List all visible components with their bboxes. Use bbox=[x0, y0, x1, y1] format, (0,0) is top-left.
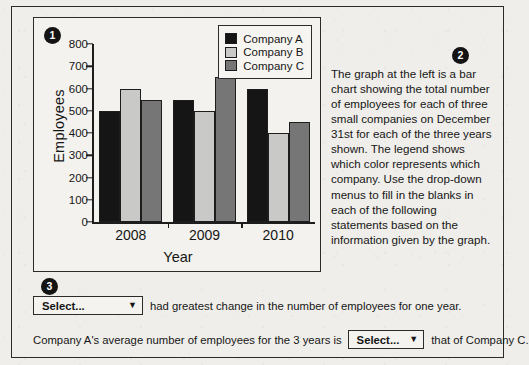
y-axis-tick-labels: 8007006005004003002001000 bbox=[48, 44, 88, 224]
questions-section: Select... ▼ had greatest change in the n… bbox=[33, 296, 493, 349]
y-tick-label: 300 bbox=[48, 149, 88, 161]
legend-item-company-b: Company B bbox=[225, 46, 304, 58]
legend-item-company-c: Company C bbox=[225, 60, 304, 72]
y-tick-mark bbox=[86, 132, 93, 133]
x-tick-label: 2009 bbox=[189, 227, 220, 243]
bar-company-b-2008 bbox=[120, 89, 141, 223]
bar-company-a-2009 bbox=[173, 100, 194, 222]
bar-company-b-2010 bbox=[268, 133, 289, 222]
y-tick-mark bbox=[86, 110, 93, 111]
x-tick-mark bbox=[241, 222, 242, 228]
chart-panel: 1 Employees 8007006005004003002001000 20… bbox=[33, 17, 321, 272]
bar-company-c-2008 bbox=[141, 100, 162, 222]
dropdown-1-value: Select... bbox=[42, 300, 85, 312]
x-tick-label: 2010 bbox=[263, 227, 294, 243]
y-tick-label: 200 bbox=[48, 172, 88, 184]
question-row-1: Select... ▼ had greatest change in the n… bbox=[33, 296, 493, 315]
y-tick-label: 400 bbox=[48, 127, 88, 139]
y-tick-mark bbox=[86, 199, 93, 200]
dropdown-2-value: Select... bbox=[357, 334, 400, 346]
y-tick-mark bbox=[86, 177, 93, 178]
legend-label: Company B bbox=[243, 46, 303, 58]
legend-label: Company A bbox=[243, 33, 302, 45]
question-1-text: had greatest change in the number of emp… bbox=[150, 300, 462, 312]
legend-swatch-icon bbox=[225, 60, 237, 71]
question-row-2: Company A's average number of employees … bbox=[33, 330, 493, 349]
chevron-down-icon: ▼ bbox=[128, 301, 137, 310]
legend-swatch-icon bbox=[225, 47, 237, 58]
bar-company-a-2008 bbox=[99, 111, 120, 222]
y-tick-mark bbox=[86, 155, 93, 156]
x-axis-line bbox=[92, 222, 315, 224]
chart-legend: Company ACompany BCompany C bbox=[218, 25, 312, 79]
bar-company-c-2010 bbox=[289, 122, 310, 222]
bar-company-a-2010 bbox=[247, 89, 268, 223]
bar-company-c-2009 bbox=[215, 77, 236, 222]
chevron-down-icon: ▼ bbox=[409, 335, 418, 344]
question-2-text-after: that of Company C. bbox=[431, 334, 528, 346]
y-tick-label: 600 bbox=[48, 83, 88, 95]
select-dropdown-1[interactable]: Select... ▼ bbox=[33, 296, 143, 315]
legend-label: Company C bbox=[243, 60, 304, 72]
y-tick-mark bbox=[86, 88, 93, 89]
step-badge-3: 3 bbox=[41, 278, 58, 295]
legend-swatch-icon bbox=[225, 33, 237, 44]
y-tick-label: 0 bbox=[48, 216, 88, 228]
x-tick-label: 2008 bbox=[115, 227, 146, 243]
question-2-text-before: Company A's average number of employees … bbox=[33, 334, 342, 346]
y-tick-mark bbox=[86, 221, 93, 222]
y-tick-mark bbox=[86, 66, 93, 67]
legend-item-company-a: Company A bbox=[225, 33, 304, 45]
description-text: The graph at the left is a bar chart sho… bbox=[331, 66, 494, 247]
y-tick-label: 800 bbox=[48, 38, 88, 50]
bar-group-2008 bbox=[94, 44, 168, 222]
step-badge-2: 2 bbox=[452, 47, 469, 64]
y-tick-label: 100 bbox=[48, 194, 88, 206]
y-tick-mark bbox=[86, 43, 93, 44]
bar-company-b-2009 bbox=[194, 111, 215, 222]
y-tick-label: 700 bbox=[48, 60, 88, 72]
select-dropdown-2[interactable]: Select... ▼ bbox=[348, 330, 425, 349]
y-tick-label: 500 bbox=[48, 105, 88, 117]
x-axis-title: Year bbox=[34, 249, 322, 265]
x-tick-mark bbox=[168, 222, 169, 228]
x-axis-tick-labels: 200820092010 bbox=[94, 227, 315, 247]
